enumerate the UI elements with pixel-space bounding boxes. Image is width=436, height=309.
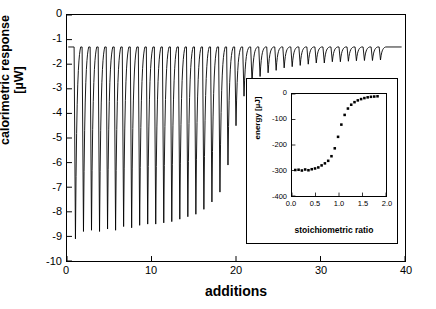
inset-plot-area bbox=[291, 93, 387, 197]
inset-x-tick: 1.0 bbox=[327, 199, 351, 208]
inset-y-axis-ticks: 0 -100 -200 -300 -400 bbox=[255, 93, 289, 197]
inset-y-tick: -300 bbox=[255, 166, 287, 175]
x-tick: 20 bbox=[221, 264, 251, 276]
inset-panel: energy [µJ] 0 -100 -200 -300 -400 0.0 0.… bbox=[246, 78, 398, 244]
x-tick: 30 bbox=[306, 264, 336, 276]
y-tick: -6 bbox=[22, 156, 62, 168]
x-tick: 40 bbox=[391, 264, 421, 276]
y-tick: -1 bbox=[22, 32, 62, 44]
y-tick: -5 bbox=[22, 131, 62, 143]
y-tick: -2 bbox=[22, 57, 62, 69]
inset-x-tick: 2.0 bbox=[375, 199, 399, 208]
x-tick: 10 bbox=[136, 264, 166, 276]
inset-y-tick: 0 bbox=[255, 88, 287, 97]
y-tick: -3 bbox=[22, 81, 62, 93]
y-tick: -8 bbox=[22, 205, 62, 217]
inset-y-tick: -200 bbox=[255, 140, 287, 149]
inset-x-tick: 0.5 bbox=[303, 199, 327, 208]
inset-x-axis-label: stoichiometric ratio bbox=[275, 225, 393, 235]
y-tick: -9 bbox=[22, 230, 62, 242]
x-axis-ticks: 0 10 20 30 40 bbox=[66, 264, 406, 280]
inset-x-tick: 0.0 bbox=[279, 199, 303, 208]
chart-figure: calorimetric response [µW] 0 -1 -2 -3 -4… bbox=[0, 0, 436, 309]
x-tick: 0 bbox=[51, 264, 81, 276]
y-axis-ticks: 0 -1 -2 -3 -4 -5 -6 -7 -8 -9 -10 bbox=[20, 14, 62, 262]
x-axis-label: additions bbox=[66, 283, 406, 299]
y-tick: 0 bbox=[22, 7, 62, 19]
inset-x-tick: 1.5 bbox=[351, 199, 375, 208]
y-tick: -4 bbox=[22, 106, 62, 118]
inset-x-axis-ticks: 0.0 0.5 1.0 1.5 2.0 bbox=[291, 199, 387, 211]
isotherm-scatter bbox=[292, 94, 386, 196]
y-tick: -7 bbox=[22, 181, 62, 193]
inset-y-tick: -100 bbox=[255, 114, 287, 123]
